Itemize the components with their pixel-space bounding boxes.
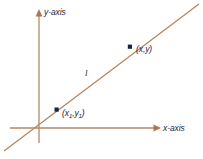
y-axis-label: y-axis [44, 7, 66, 17]
arrow-up-icon [36, 9, 43, 17]
line-label-l: l [85, 68, 88, 78]
arrow-right-icon [154, 125, 162, 132]
subscript-x: 1 [69, 113, 72, 119]
point-label-x1y1: (x1,y1) [62, 108, 85, 118]
coordinate-plane-diagram: y-axis x-axis (x,y) (x1,y1) l [0, 0, 203, 159]
x-axis-label: x-axis [163, 123, 185, 133]
var-y: y [74, 108, 78, 118]
point-marker-x1y1 [55, 108, 59, 112]
point-label-xy: (x,y) [136, 44, 152, 54]
point-marker-xy [128, 45, 132, 49]
diagram-canvas [0, 0, 203, 159]
paren-close: ) [82, 108, 85, 118]
subscript-y: 1 [79, 113, 82, 119]
